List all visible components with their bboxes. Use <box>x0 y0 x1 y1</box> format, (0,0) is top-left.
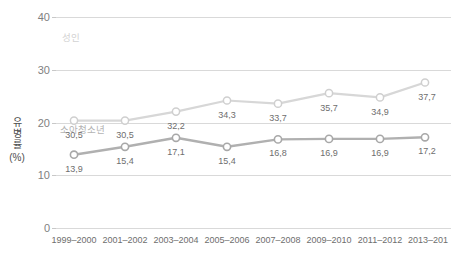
x-tick-label-1: 1999–2000 <box>51 236 96 245</box>
series-label-adult: 성인 <box>62 33 80 43</box>
chart-screenshot: 40 30 20 10 0 유 병 률 (%) <box>0 0 451 255</box>
data-point-adult-7 <box>376 94 383 101</box>
data-point-child-3 <box>172 134 179 141</box>
data-point-adult-2 <box>121 117 128 124</box>
data-point-adult-3 <box>172 108 179 115</box>
value-label-child-3: 17,1 <box>167 148 185 157</box>
data-point-child-2 <box>121 143 128 150</box>
value-label-adult-3: 32,2 <box>167 122 185 131</box>
value-label-child-2: 15,4 <box>116 157 134 166</box>
data-point-child-6 <box>325 135 332 142</box>
value-label-adult-6: 35,7 <box>320 104 338 113</box>
data-point-adult-5 <box>274 100 281 107</box>
value-label-adult-4: 34,3 <box>218 111 236 120</box>
value-label-adult-1: 30,5 <box>65 131 83 140</box>
value-label-adult-2: 30,5 <box>116 131 134 140</box>
x-tick-label-6: 2009–2010 <box>306 236 351 245</box>
data-point-adult-8 <box>421 79 428 86</box>
data-point-adult-4 <box>223 97 230 104</box>
value-label-adult-8: 37,7 <box>418 93 436 102</box>
value-label-child-8: 17,2 <box>418 147 436 156</box>
x-tick-label-4: 2005–2006 <box>204 236 249 245</box>
data-point-child-8 <box>421 134 428 141</box>
x-tick-label-3: 2003–2004 <box>153 236 198 245</box>
value-label-child-4: 15,4 <box>218 157 236 166</box>
data-point-child-1 <box>70 151 77 158</box>
value-label-child-5: 16,8 <box>269 149 287 158</box>
data-point-child-5 <box>274 136 281 143</box>
x-tick-label-7: 2011–2012 <box>358 236 402 245</box>
data-point-adult-6 <box>325 90 332 97</box>
value-label-adult-5: 33,7 <box>269 114 287 123</box>
value-label-child-6: 16,9 <box>320 149 338 158</box>
data-point-child-7 <box>376 135 383 142</box>
x-tick-label-8: 2013–201 <box>408 236 448 245</box>
value-label-child-7: 16,9 <box>371 149 389 158</box>
x-tick-label-5: 2007–2008 <box>255 236 300 245</box>
x-tick-label-2: 2001–2002 <box>102 236 147 245</box>
value-label-child-1: 13,9 <box>65 165 83 174</box>
data-point-child-4 <box>223 143 230 150</box>
value-label-adult-7: 34,9 <box>371 108 389 117</box>
